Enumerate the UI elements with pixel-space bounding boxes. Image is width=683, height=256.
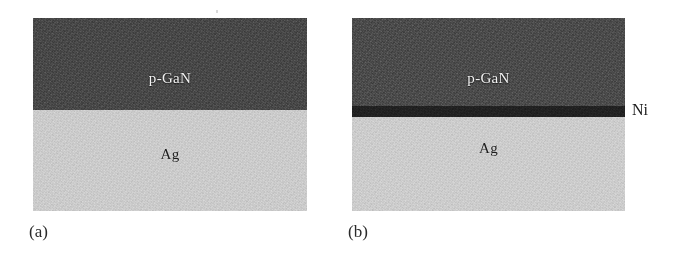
panel-b-label-ag: Ag: [352, 140, 625, 157]
scan-artifact-speck: [216, 10, 218, 13]
panel-b-layer-p-gan: [352, 18, 625, 106]
panel-a-label-p-gan: p-GaN: [33, 70, 307, 87]
panel-a: p-GaN Ag: [33, 18, 307, 211]
ni-side-label: Ni: [632, 101, 648, 119]
panel-a-label-ag: Ag: [33, 146, 307, 163]
panel-a-micrograph: p-GaN Ag: [33, 18, 307, 211]
panel-b-layer-ni: [352, 106, 625, 117]
panel-b-label-p-gan: p-GaN: [352, 70, 625, 87]
panel-a-caption: (a): [29, 222, 48, 242]
panel-b: p-GaN Ag: [352, 18, 625, 211]
panel-a-layer-p-gan: [33, 18, 307, 110]
panel-b-layer-ag: [352, 117, 625, 211]
panel-b-caption: (b): [348, 222, 368, 242]
panel-b-micrograph: p-GaN Ag: [352, 18, 625, 211]
figure-container: p-GaN Ag (a) p-GaN Ag Ni (b): [0, 0, 683, 256]
